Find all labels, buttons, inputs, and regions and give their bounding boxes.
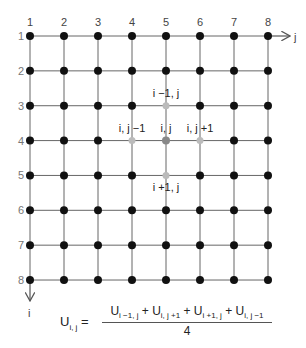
- formula-numerator: Ui −1, j + Ui, j +1 + Ui +1, j + Ui, j −…: [102, 304, 272, 323]
- grid-node: [230, 102, 238, 110]
- grid-node: [264, 171, 272, 179]
- grid-node: [230, 32, 238, 40]
- grid-node: [128, 102, 136, 110]
- grid-node: [26, 67, 34, 75]
- grid-node: [94, 137, 102, 145]
- row-label: 3: [18, 100, 24, 112]
- grid-node: [60, 67, 68, 75]
- row-label: 6: [18, 204, 24, 216]
- grid-node: [60, 102, 68, 110]
- grid-node: [26, 276, 34, 284]
- grid-node: [162, 276, 170, 284]
- row-label: 1: [18, 30, 24, 42]
- grid-node: [230, 137, 238, 145]
- column-label: 5: [163, 16, 169, 28]
- formula-term-sub: i +1, j: [203, 311, 222, 320]
- grid-node: [196, 241, 204, 249]
- update-formula: Ui, j = Ui −1, j + Ui, j +1 + Ui +1, j +…: [60, 304, 300, 344]
- grid-node: [230, 241, 238, 249]
- grid-node: [162, 241, 170, 249]
- formula-term-sub: i −1, j: [119, 311, 138, 320]
- grid-node: [94, 32, 102, 40]
- grid-node: [264, 241, 272, 249]
- grid-node: [162, 32, 170, 40]
- grid-node: [128, 67, 136, 75]
- grid-node: [60, 171, 68, 179]
- formula-term-sub: i, j −1: [244, 311, 263, 320]
- stencil-center-node-label: i, j: [161, 122, 172, 134]
- formula-plus: +: [138, 304, 152, 318]
- grid-node: [26, 171, 34, 179]
- formula-term: U: [236, 304, 245, 318]
- formula-plus: +: [180, 304, 194, 318]
- grid-node: [26, 206, 34, 214]
- grid-node: [162, 206, 170, 214]
- row-label: 8: [18, 274, 24, 286]
- formula-fraction: Ui −1, j + Ui, j +1 + Ui +1, j + Ui, j −…: [102, 304, 272, 338]
- grid-node: [128, 32, 136, 40]
- formula-term: U: [110, 304, 119, 318]
- grid-node: [264, 276, 272, 284]
- grid-node: [60, 241, 68, 249]
- column-labels: 12345678: [27, 16, 271, 28]
- grid-node: [230, 171, 238, 179]
- i-axis-label: i: [28, 307, 30, 319]
- stencil-center-node: [162, 137, 170, 145]
- grid-node: [128, 206, 136, 214]
- grid-node: [94, 171, 102, 179]
- row-label: 4: [18, 135, 24, 147]
- grid-node: [264, 137, 272, 145]
- stencil-neighbor-node: [129, 137, 136, 144]
- grid-node: [264, 206, 272, 214]
- row-label: 5: [18, 169, 24, 181]
- grid-node: [128, 241, 136, 249]
- formula-term: U: [152, 304, 161, 318]
- grid-node: [26, 102, 34, 110]
- stencil-neighbor-node-label: i +1, j: [153, 181, 180, 193]
- row-label: 2: [18, 65, 24, 77]
- grid-node: [196, 67, 204, 75]
- column-label: 1: [27, 16, 33, 28]
- stencil-neighbor-node-label: i, j +1: [187, 122, 214, 134]
- grid-node: [94, 206, 102, 214]
- stencil-neighbor-node-label: i −1, j: [153, 87, 180, 99]
- grid-node: [60, 32, 68, 40]
- grid-node: [94, 67, 102, 75]
- column-label: 4: [129, 16, 135, 28]
- formula-lhs: Ui, j =: [60, 314, 89, 332]
- grid-node: [60, 206, 68, 214]
- grid-node: [264, 32, 272, 40]
- grid-node: [230, 206, 238, 214]
- grid-node: [230, 67, 238, 75]
- grid-node: [196, 276, 204, 284]
- grid-node: [128, 171, 136, 179]
- grid-node: [162, 67, 170, 75]
- grid-node: [196, 206, 204, 214]
- formula-plus: +: [222, 304, 236, 318]
- row-labels: 12345678: [18, 30, 24, 286]
- grid-node: [94, 102, 102, 110]
- formula-lhs-base: U: [60, 314, 69, 329]
- grid-node: [196, 171, 204, 179]
- grid-node: [60, 276, 68, 284]
- grid-node: [60, 137, 68, 145]
- grid-node: [230, 276, 238, 284]
- stencil-neighbor-node-label: i, j −1: [119, 122, 146, 134]
- grid-node: [94, 241, 102, 249]
- row-label: 7: [18, 239, 24, 251]
- grid-nodes: [26, 32, 272, 284]
- formula-denominator: 4: [102, 323, 272, 338]
- grid-node: [196, 102, 204, 110]
- stencil-neighbor-node: [163, 172, 170, 179]
- grid-node: [196, 32, 204, 40]
- stencil-neighbor-node: [163, 102, 170, 109]
- grid-node: [128, 276, 136, 284]
- stencil-neighbor-node: [197, 137, 204, 144]
- column-label: 3: [95, 16, 101, 28]
- j-axis-label: j: [293, 31, 296, 43]
- column-label: 7: [231, 16, 237, 28]
- grid-diagram: j i 12345678 12345678 i, ji −1, ji, j −1…: [0, 0, 306, 348]
- column-label: 2: [61, 16, 67, 28]
- column-label: 8: [265, 16, 271, 28]
- grid-node: [264, 67, 272, 75]
